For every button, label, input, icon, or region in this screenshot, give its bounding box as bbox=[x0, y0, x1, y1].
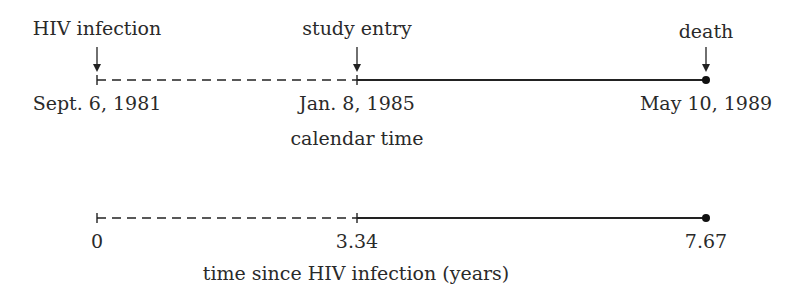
arrow-down-icon bbox=[93, 47, 101, 72]
tick-label-7-67: 7.67 bbox=[685, 232, 727, 251]
event-label-death: death bbox=[679, 22, 734, 41]
axis-label-time-since-infection: time since HIV infection (years) bbox=[203, 264, 509, 283]
date-label-entry: Jan. 8, 1985 bbox=[299, 94, 415, 113]
arrow-down-icon bbox=[353, 47, 361, 72]
death-dot bbox=[702, 214, 710, 222]
axis-label-calendar-time: calendar time bbox=[290, 129, 423, 148]
event-label-study-entry: study entry bbox=[302, 19, 412, 38]
tick-label-3-34: 3.34 bbox=[336, 232, 378, 251]
date-label-death: May 10, 1989 bbox=[640, 94, 772, 113]
death-dot bbox=[702, 76, 710, 84]
event-label-hiv-infection: HIV infection bbox=[33, 19, 161, 38]
arrow-down-icon bbox=[702, 47, 710, 72]
calendar-timeline bbox=[93, 47, 710, 85]
date-label-infection: Sept. 6, 1981 bbox=[33, 94, 162, 113]
tick-label-0: 0 bbox=[91, 232, 103, 251]
elapsed-timeline bbox=[97, 213, 710, 223]
